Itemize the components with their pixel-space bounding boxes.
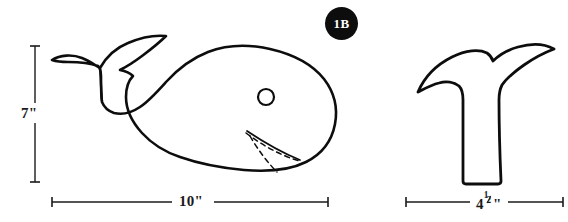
pattern-diagram-canvas: 1B 7" 10" 412": [0, 0, 568, 222]
tail-width-denominator: 2: [486, 196, 491, 205]
pattern-number-badge: 1B: [325, 7, 358, 40]
dimension-label-height: 7": [18, 104, 40, 123]
pattern-artwork: [0, 0, 568, 222]
whale-eye-icon: [258, 89, 274, 105]
tail-fluke-outline: [418, 45, 554, 184]
whale-body-outline: [52, 36, 336, 171]
tail-width-unit: ": [493, 196, 502, 212]
tail-width-fraction: 12: [484, 194, 493, 209]
dimension-label-tail-width: 412": [472, 193, 506, 213]
dimension-label-body-width: 10": [174, 193, 208, 210]
tail-width-whole: 4: [476, 196, 484, 212]
